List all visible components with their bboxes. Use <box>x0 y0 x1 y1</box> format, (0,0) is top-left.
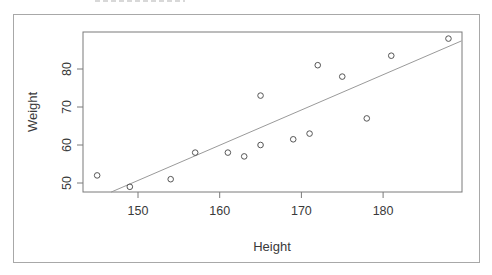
x-tick-label: 160 <box>209 204 230 218</box>
data-point <box>94 173 100 179</box>
x-axis: 150160170180 <box>128 192 394 218</box>
data-point <box>225 150 231 156</box>
data-point <box>339 74 345 80</box>
data-point <box>168 176 174 182</box>
x-axis-title: Height <box>253 239 291 254</box>
data-point <box>446 36 452 42</box>
regression-line-path <box>111 41 461 192</box>
data-point <box>127 184 133 190</box>
data-point <box>388 53 394 59</box>
data-point <box>364 116 370 122</box>
plot-box <box>83 32 462 192</box>
data-point <box>241 154 247 160</box>
plot-frame <box>83 32 462 192</box>
y-axis: 50607080 <box>60 62 83 190</box>
x-tick-label: 180 <box>373 204 394 218</box>
x-tick-label: 170 <box>291 204 312 218</box>
x-tick-label: 150 <box>128 204 149 218</box>
regression-line <box>111 41 461 192</box>
data-point <box>192 150 198 156</box>
y-tick-label: 70 <box>60 100 74 114</box>
y-axis-title: Weight <box>25 92 40 133</box>
data-point <box>258 142 264 148</box>
y-tick-label: 60 <box>60 138 74 152</box>
y-tick-label: 50 <box>60 176 74 190</box>
data-point <box>258 93 264 99</box>
data-point <box>290 137 296 143</box>
data-points <box>94 36 451 190</box>
data-point <box>315 62 321 68</box>
scatter-plot: 150160170180 50607080 Height Weight <box>0 0 492 275</box>
data-point <box>307 131 313 137</box>
y-tick-label: 80 <box>60 62 74 76</box>
